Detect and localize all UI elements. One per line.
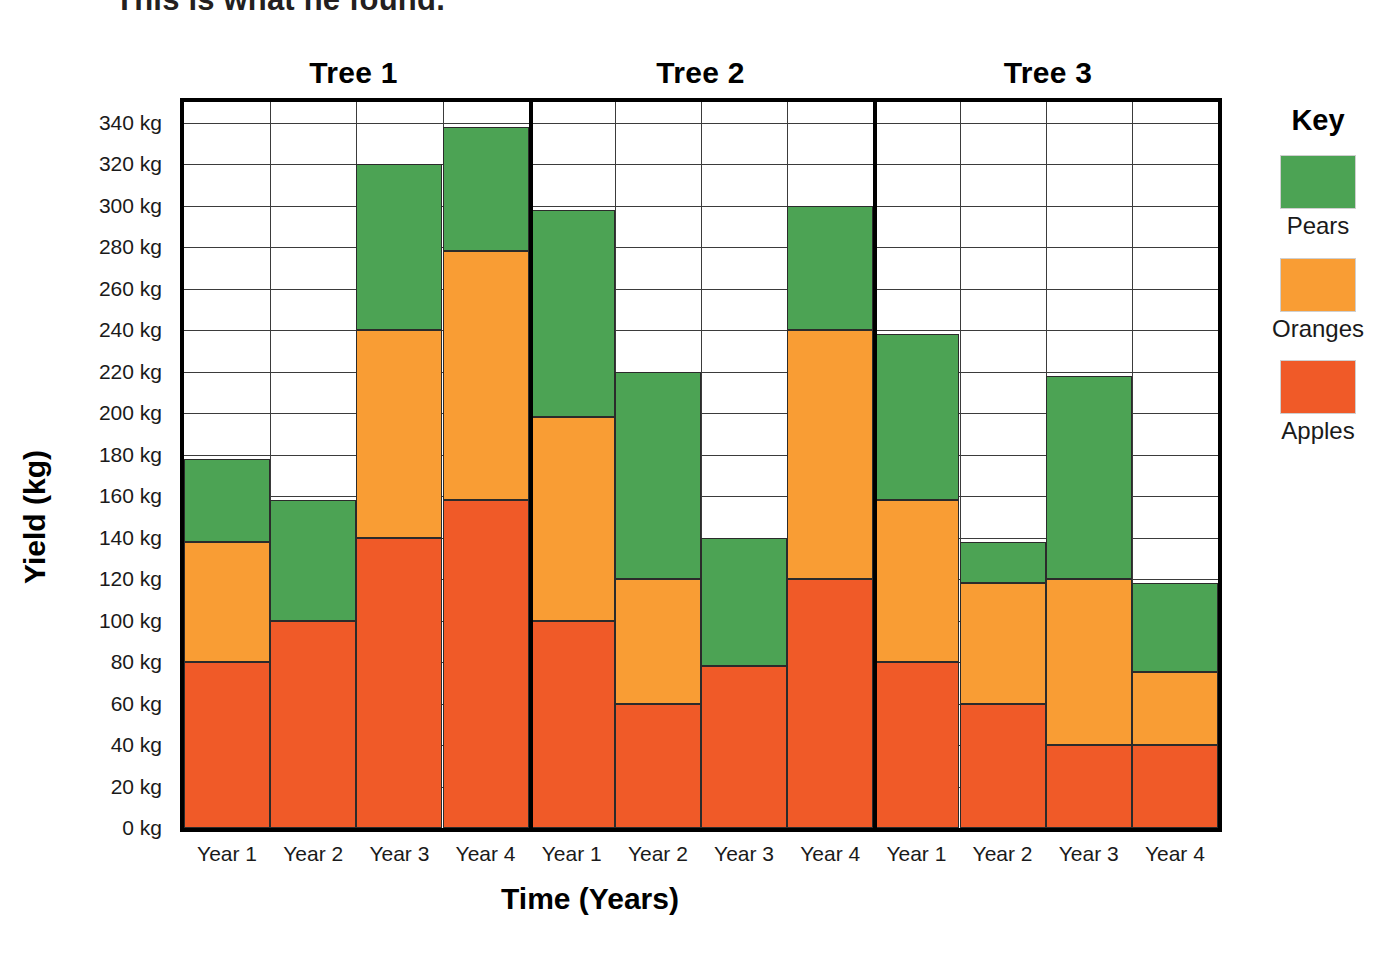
x-axis-tick-label: Year 1 xyxy=(184,842,270,866)
bar-segment-oranges xyxy=(787,330,873,579)
bar-segment-pears xyxy=(1046,376,1132,579)
y-axis-title: Yield (kg) xyxy=(18,427,52,607)
x-axis-tick-label: Year 2 xyxy=(960,842,1046,866)
bar-segment-pears xyxy=(873,334,959,500)
legend-item-pears: Pears xyxy=(1248,155,1388,240)
bar-segment-apples xyxy=(615,704,701,828)
bar-segment-oranges xyxy=(615,579,701,703)
legend-title: Key xyxy=(1248,104,1388,137)
page-caption: This is what he found. xyxy=(0,0,560,18)
bar-segment-apples xyxy=(787,579,873,828)
y-axis-tick-label: 200 kg xyxy=(99,401,162,425)
group-title-tree-3: Tree 3 xyxy=(874,56,1222,90)
legend-label-apples: Apples xyxy=(1248,417,1388,445)
legend-swatch-pears xyxy=(1280,155,1356,209)
y-axis-tick-label: 80 kg xyxy=(111,650,162,674)
bar-segment-apples xyxy=(184,662,270,828)
bar-segment-pears xyxy=(960,542,1046,583)
y-axis-tick-label: 300 kg xyxy=(99,194,162,218)
y-axis-tick-label: 160 kg xyxy=(99,484,162,508)
bar-segment-pears xyxy=(701,538,787,667)
bar-segment-oranges xyxy=(960,583,1046,703)
y-axis-tick-label: 20 kg xyxy=(111,775,162,799)
bar-segment-apples xyxy=(701,666,787,828)
bar-segment-pears xyxy=(787,206,873,330)
group-title-tree-1: Tree 1 xyxy=(180,56,527,90)
bar-segment-apples xyxy=(529,621,615,828)
y-axis-tick-label: 120 kg xyxy=(99,567,162,591)
bar-segment-oranges xyxy=(529,417,615,620)
y-axis-tick-label: 40 kg xyxy=(111,733,162,757)
y-axis-tick-label: 60 kg xyxy=(111,692,162,716)
bar-segment-apples xyxy=(270,621,356,828)
x-axis-tick-label: Year 2 xyxy=(615,842,701,866)
y-axis-tick-label: 340 kg xyxy=(99,111,162,135)
bar-segment-oranges xyxy=(1046,579,1132,745)
bar-segment-apples xyxy=(873,662,959,828)
chart-legend: Key Pears Oranges Apples xyxy=(1248,104,1388,463)
chart-plot-area xyxy=(180,98,1222,832)
y-axis-tick-label: 260 kg xyxy=(99,277,162,301)
y-axis-tick-label: 240 kg xyxy=(99,318,162,342)
bar-segment-pears xyxy=(615,372,701,579)
legend-swatch-oranges xyxy=(1280,258,1356,312)
legend-label-pears: Pears xyxy=(1248,212,1388,240)
chart-canvas xyxy=(184,102,1218,828)
y-axis-tick-label: 140 kg xyxy=(99,526,162,550)
bar-segment-oranges xyxy=(873,500,959,662)
bar-segment-pears xyxy=(1132,583,1218,672)
x-axis-tick-label: Year 3 xyxy=(356,842,442,866)
bar-segment-oranges xyxy=(184,542,270,662)
legend-item-apples: Apples xyxy=(1248,360,1388,445)
legend-swatch-apples xyxy=(1280,360,1356,414)
group-title-tree-2: Tree 2 xyxy=(527,56,874,90)
y-axis-tick-label: 320 kg xyxy=(99,152,162,176)
y-axis-tick-label: 220 kg xyxy=(99,360,162,384)
bar-segment-pears xyxy=(270,500,356,620)
bar-segment-apples xyxy=(443,500,529,828)
x-axis-tick-label: Year 1 xyxy=(873,842,959,866)
x-axis-tick-label: Year 4 xyxy=(443,842,529,866)
bar-segment-oranges xyxy=(1132,672,1218,745)
y-axis-tick-label: 280 kg xyxy=(99,235,162,259)
x-axis-tick-label: Year 4 xyxy=(1132,842,1218,866)
bar-segment-apples xyxy=(1132,745,1218,828)
bar-segment-pears xyxy=(443,127,529,251)
y-axis-tick-label: 0 kg xyxy=(122,816,162,840)
y-axis-tick-label: 100 kg xyxy=(99,609,162,633)
x-axis-tick-label: Year 4 xyxy=(787,842,873,866)
group-separator xyxy=(529,98,533,832)
y-axis-tick-label: 180 kg xyxy=(99,443,162,467)
bar-segment-oranges xyxy=(443,251,529,500)
bar-segment-pears xyxy=(184,459,270,542)
x-axis-tick-label: Year 3 xyxy=(701,842,787,866)
legend-item-oranges: Oranges xyxy=(1248,258,1388,343)
x-axis-tick-label: Year 3 xyxy=(1046,842,1132,866)
bar-segment-apples xyxy=(1046,745,1132,828)
x-axis-title: Time (Years) xyxy=(0,882,1290,916)
legend-label-oranges: Oranges xyxy=(1248,315,1388,343)
bar-segment-pears xyxy=(356,164,442,330)
bar-segment-apples xyxy=(356,538,442,828)
bar-segment-pears xyxy=(529,210,615,417)
x-axis-tick-label: Year 2 xyxy=(270,842,356,866)
bar-segment-oranges xyxy=(356,330,442,537)
group-separator xyxy=(873,98,877,832)
bar-segment-apples xyxy=(960,704,1046,828)
x-axis-tick-label: Year 1 xyxy=(529,842,615,866)
